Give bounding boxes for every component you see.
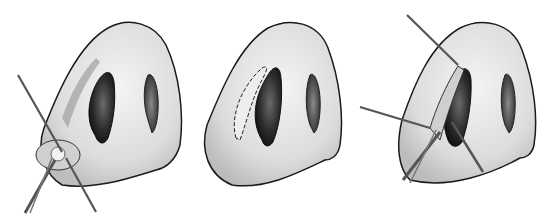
panel-3-nose xyxy=(360,15,536,183)
illustration xyxy=(0,0,555,223)
panel-1-nose xyxy=(18,22,181,213)
panel-2-nose xyxy=(205,23,342,186)
